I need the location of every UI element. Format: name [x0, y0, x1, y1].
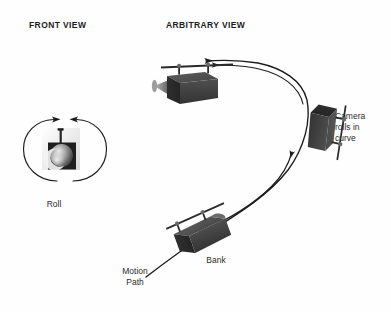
- arbitrary-view-group: [146, 60, 351, 277]
- bank-camera: [164, 202, 236, 259]
- diagram-canvas: FRONT VIEW ARBITRARY VIEW Roll Bank Moti…: [0, 0, 391, 312]
- top-camera-lens-face: [152, 80, 157, 92]
- top-camera-rail-knob-left: [177, 64, 181, 68]
- front-view-group: [24, 120, 107, 182]
- front-camera-stalk: [60, 129, 62, 144]
- rolled-camera: [302, 98, 351, 160]
- motion-path-upper-inner-arrow: [213, 65, 303, 104]
- front-camera-stalk-cap: [58, 128, 64, 130]
- top-camera-side-face: [180, 79, 218, 104]
- rolled-camera-rail-knob-right: [338, 142, 343, 147]
- top-camera-rail-knob-right: [206, 63, 210, 67]
- rolled-camera-rail-knob-left: [342, 117, 347, 122]
- diagram-illustration: [0, 0, 391, 312]
- top-camera-top-rail: [161, 64, 233, 69]
- top-camera: [152, 63, 233, 104]
- front-camera-lens-glow: [50, 144, 73, 167]
